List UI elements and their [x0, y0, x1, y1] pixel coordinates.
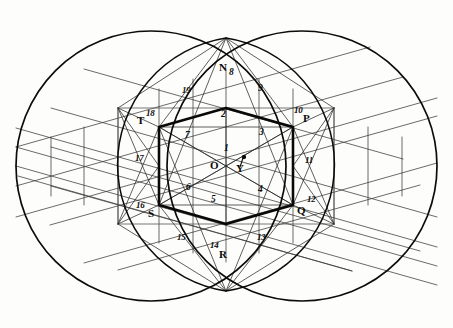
point-label-P: P	[303, 113, 310, 124]
region-label-12: 12	[307, 195, 315, 204]
right-circle	[167, 31, 437, 301]
region-label-19: 19	[182, 86, 190, 95]
point-label-Y: Y	[236, 163, 244, 174]
region-label-16: 16	[136, 201, 144, 210]
region-label-6: 6	[186, 183, 191, 193]
region-label-9: 9	[258, 84, 263, 94]
region-label-7: 7	[185, 131, 190, 141]
region-label-4: 4	[258, 185, 263, 195]
region-label-18: 18	[146, 109, 154, 118]
point-label-Q: Q	[297, 205, 306, 216]
region-label-11: 11	[305, 156, 313, 165]
point-label-T: T	[137, 115, 144, 126]
region-label-15: 15	[177, 233, 185, 242]
region-label-2: 2	[221, 110, 226, 120]
region-label-3: 3	[259, 128, 264, 138]
region-label-5: 5	[211, 195, 216, 205]
region-label-1: 1	[224, 144, 229, 154]
region-label-8: 8	[229, 68, 234, 78]
region-label-14: 14	[210, 241, 218, 250]
region-label-17: 17	[135, 154, 143, 163]
region-label-10: 10	[294, 106, 302, 115]
diagram-canvas: N O P Q R S T Y 1 2 3 4 5 6 7 8 9 10 11 …	[0, 0, 453, 328]
point-label-S: S	[148, 208, 154, 219]
geometric-figure	[0, 0, 453, 328]
point-label-N: N	[219, 62, 227, 73]
region-label-13: 13	[257, 233, 265, 242]
point-label-O: O	[210, 160, 219, 171]
point-label-R: R	[219, 249, 227, 260]
